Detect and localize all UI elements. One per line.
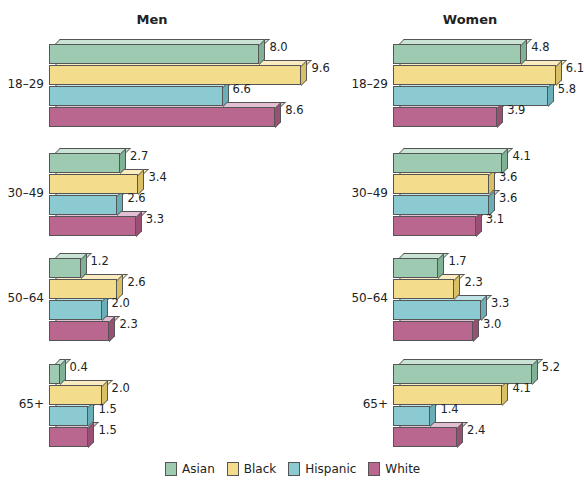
- bar-hispanic: [393, 195, 489, 215]
- age-group-label: 65+: [348, 397, 388, 411]
- bar-side-face: [275, 102, 281, 128]
- bar-top-face: [55, 148, 131, 153]
- value-label: 2.6: [127, 191, 145, 205]
- bar-side-face: [109, 316, 115, 342]
- value-label: 2.4: [467, 423, 485, 437]
- value-label: 2.7: [130, 149, 148, 163]
- bar-hispanic: [393, 300, 481, 320]
- bar-side-face: [136, 211, 142, 237]
- value-label: 3.6: [499, 191, 517, 205]
- value-label: 2.3: [464, 275, 482, 289]
- bar-asian: [49, 153, 120, 173]
- bar-side-face: [301, 60, 307, 86]
- value-label: 1.7: [448, 254, 466, 268]
- bar-black: [49, 279, 117, 299]
- value-label: 6.6: [233, 82, 251, 96]
- bar-white: [49, 321, 109, 341]
- age-group-label: 30–49: [4, 186, 44, 200]
- bar-asian: [49, 364, 60, 384]
- legend-swatch-black: [227, 462, 239, 476]
- bar-top-face: [399, 39, 532, 44]
- value-label: 2.6: [127, 275, 145, 289]
- legend-swatch-white: [368, 462, 380, 476]
- bar-black: [393, 174, 489, 194]
- legend-swatch-asian: [165, 462, 177, 476]
- bar-black: [393, 65, 556, 85]
- value-label: 0.4: [70, 360, 88, 374]
- value-label: 3.4: [148, 170, 166, 184]
- panel-title-women: Women: [410, 12, 530, 27]
- legend: Asian Black Hispanic White: [165, 462, 420, 476]
- value-label: 4.8: [531, 40, 549, 54]
- bar-black: [393, 279, 454, 299]
- bar-hispanic: [49, 86, 223, 106]
- bar-side-face: [457, 422, 463, 448]
- value-label: 6.1: [566, 61, 584, 75]
- age-group-label: 30–49: [348, 186, 388, 200]
- value-label: 5.8: [558, 82, 576, 96]
- bar-white: [49, 216, 136, 236]
- value-label: 3.1: [486, 212, 504, 226]
- panel-title-men: Men: [92, 12, 212, 27]
- value-label: 1.2: [91, 254, 109, 268]
- bar-black: [49, 174, 138, 194]
- value-label: 3.3: [491, 296, 509, 310]
- value-label: 3.6: [499, 170, 517, 184]
- age-group-label: 18–29: [348, 77, 388, 91]
- value-label: 8.6: [285, 103, 303, 117]
- value-label: 2.0: [112, 381, 130, 395]
- value-label: 5.2: [542, 360, 560, 374]
- bar-black: [49, 385, 102, 405]
- bar-asian: [393, 364, 532, 384]
- bar-hispanic: [49, 300, 102, 320]
- value-label: 1.5: [98, 423, 116, 437]
- bar-white: [393, 321, 473, 341]
- value-label: 9.6: [311, 61, 329, 75]
- value-label: 3.9: [507, 103, 525, 117]
- age-group-label: 18–29: [4, 77, 44, 91]
- age-group-label: 50–64: [4, 291, 44, 305]
- bar-asian: [393, 258, 438, 278]
- bar-hispanic: [49, 406, 88, 426]
- bar-white: [393, 107, 497, 127]
- bar-top-face: [55, 39, 270, 44]
- value-label: 1.4: [440, 402, 458, 416]
- legend-label: White: [385, 462, 420, 476]
- legend-label: Black: [244, 462, 276, 476]
- value-label: 1.5: [98, 402, 116, 416]
- bar-top-face: [399, 148, 513, 153]
- bar-side-face: [88, 422, 94, 448]
- value-label: 4.1: [512, 149, 530, 163]
- legend-label: Hispanic: [305, 462, 356, 476]
- legend-label: Asian: [182, 462, 215, 476]
- value-label: 3.3: [146, 212, 164, 226]
- bar-top-face: [399, 359, 543, 364]
- legend-item-black: Black: [227, 462, 276, 476]
- age-group-label: 65+: [4, 397, 44, 411]
- bar-white: [393, 427, 457, 447]
- value-label: 3.0: [483, 317, 501, 331]
- bar-asian: [49, 258, 81, 278]
- value-label: 2.0: [112, 296, 130, 310]
- bar-hispanic: [49, 195, 117, 215]
- value-label: 2.3: [119, 317, 137, 331]
- bar-white: [49, 107, 275, 127]
- legend-swatch-hispanic: [288, 462, 300, 476]
- bar-asian: [49, 44, 259, 64]
- age-group-label: 50–64: [348, 291, 388, 305]
- legend-item-hispanic: Hispanic: [288, 462, 356, 476]
- value-label: 8.0: [269, 40, 287, 54]
- bar-side-face: [532, 359, 538, 385]
- legend-item-asian: Asian: [165, 462, 215, 476]
- bar-hispanic: [393, 406, 430, 426]
- bar-asian: [393, 153, 502, 173]
- bar-white: [49, 427, 88, 447]
- legend-item-white: White: [368, 462, 420, 476]
- bar-asian: [393, 44, 521, 64]
- bar-black: [49, 65, 301, 85]
- value-label: 4.1: [512, 381, 530, 395]
- bar-white: [393, 216, 476, 236]
